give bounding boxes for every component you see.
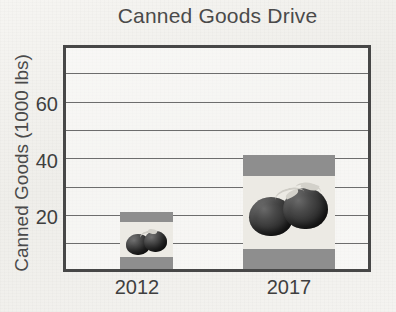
tomato-icon xyxy=(243,155,335,269)
chart-title: Canned Goods Drive xyxy=(63,4,372,28)
gridline-60 xyxy=(66,102,368,103)
x-tick-label-2017: 2017 xyxy=(249,276,329,299)
tomato-icon xyxy=(120,212,173,269)
y-tick-label-40: 40 xyxy=(18,150,58,173)
bar-chart: Canned Goods Drive Canned Goods (1000 lb… xyxy=(0,0,396,312)
bar-2017[interactable] xyxy=(243,155,335,269)
plot-area xyxy=(63,45,371,272)
x-tick-label-2012: 2012 xyxy=(97,276,177,299)
gridline-50 xyxy=(66,130,368,131)
y-tick-label-20: 20 xyxy=(18,206,58,229)
bar-2012[interactable] xyxy=(120,212,173,269)
gridline-70 xyxy=(66,73,368,74)
y-tick-label-60: 60 xyxy=(18,93,58,116)
